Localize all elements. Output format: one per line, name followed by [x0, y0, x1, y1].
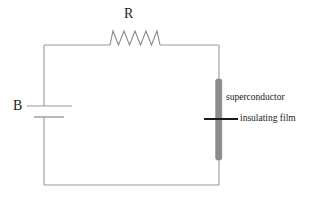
- superconductor-label: superconductor: [226, 93, 285, 103]
- circuit-diagram: R B superconductor insulating film: [0, 0, 316, 204]
- insulating-film-label: insulating film: [240, 114, 296, 124]
- battery-label: B: [13, 99, 22, 113]
- resistor-label: R: [124, 7, 133, 21]
- resistor-zigzag: [110, 31, 160, 45]
